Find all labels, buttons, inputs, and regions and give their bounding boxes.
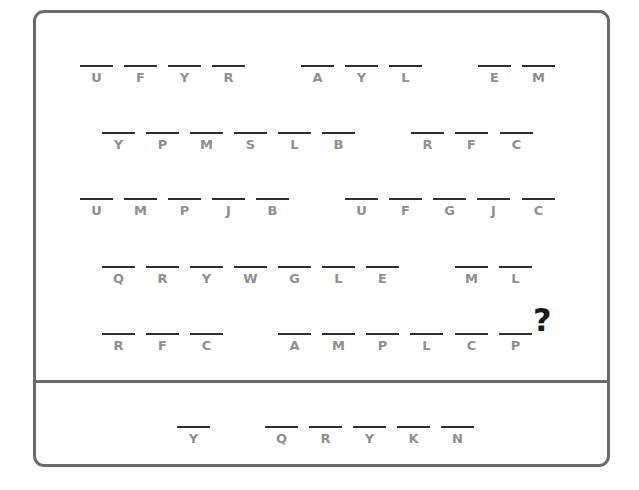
puzzle-letter-slot: R xyxy=(212,65,245,91)
letter: R xyxy=(309,431,342,447)
letter: P xyxy=(168,203,201,219)
puzzle-letter-slot: U xyxy=(80,198,113,224)
puzzle-letter-slot: C xyxy=(190,333,223,359)
puzzle-letter-slot: L xyxy=(278,132,311,158)
letter: G xyxy=(278,271,311,287)
puzzle-letter-slot: M xyxy=(190,132,223,158)
answer-letter-slot: R xyxy=(309,426,342,452)
puzzle-letter-slot: B xyxy=(322,132,355,158)
letter: L xyxy=(499,271,532,287)
blank-dash xyxy=(410,333,443,335)
blank-dash xyxy=(168,65,201,67)
blank-dash xyxy=(146,333,179,335)
puzzle-letter-slot: C xyxy=(455,333,488,359)
blank-dash xyxy=(177,426,210,428)
blank-dash xyxy=(477,198,510,200)
letter: U xyxy=(80,70,113,86)
puzzle-letter-slot: M xyxy=(522,65,555,91)
letter: N xyxy=(441,431,474,447)
letter: M xyxy=(522,70,555,86)
letter: J xyxy=(212,203,245,219)
blank-dash xyxy=(322,132,355,134)
letter: M xyxy=(455,271,488,287)
puzzle-letter-slot: G xyxy=(278,266,311,292)
blank-dash xyxy=(256,198,289,200)
letter: F xyxy=(455,137,488,153)
letter: Y xyxy=(353,431,386,447)
blank-dash xyxy=(234,266,267,268)
puzzle-letter-slot: Y xyxy=(168,65,201,91)
answer-letter-slot: K xyxy=(397,426,430,452)
blank-dash xyxy=(234,132,267,134)
answer-letter-slot: Q xyxy=(265,426,298,452)
answer-letter-slot: N xyxy=(441,426,474,452)
puzzle-letter-slot: Y xyxy=(190,266,223,292)
letter: E xyxy=(366,271,399,287)
puzzle-letter-slot: G xyxy=(433,198,466,224)
puzzle-letter-slot: L xyxy=(389,65,422,91)
puzzle-letter-slot: J xyxy=(212,198,245,224)
letter: C xyxy=(455,338,488,354)
letter: F xyxy=(389,203,422,219)
letter: A xyxy=(278,338,311,354)
blank-dash xyxy=(522,198,555,200)
letter: Y xyxy=(190,271,223,287)
puzzle-letter-slot: A xyxy=(301,65,334,91)
blank-dash xyxy=(455,266,488,268)
puzzle-letter-slot: J xyxy=(477,198,510,224)
blank-dash xyxy=(190,266,223,268)
puzzle-letter-slot: P xyxy=(499,333,532,359)
letter: J xyxy=(477,203,510,219)
letter: R xyxy=(102,338,135,354)
blank-dash xyxy=(322,333,355,335)
letter: Y xyxy=(168,70,201,86)
blank-dash xyxy=(102,132,135,134)
blank-dash xyxy=(345,198,378,200)
blank-dash xyxy=(389,65,422,67)
letter: C xyxy=(500,137,533,153)
puzzle-letter-slot: F xyxy=(146,333,179,359)
puzzle-letter-slot: M xyxy=(124,198,157,224)
letter: F xyxy=(124,70,157,86)
blank-dash xyxy=(301,65,334,67)
letter: U xyxy=(80,203,113,219)
puzzle-letter-slot: U xyxy=(345,198,378,224)
answer-letter-slot: Y xyxy=(353,426,386,452)
blank-dash xyxy=(345,65,378,67)
puzzle-letter-slot: F xyxy=(455,132,488,158)
puzzle-letter-slot: E xyxy=(366,266,399,292)
letter: Q xyxy=(265,431,298,447)
letter: E xyxy=(478,70,511,86)
letter: B xyxy=(322,137,355,153)
letter: M xyxy=(322,338,355,354)
letter: A xyxy=(301,70,334,86)
letter: R xyxy=(411,137,444,153)
blank-dash xyxy=(322,266,355,268)
blank-dash xyxy=(278,132,311,134)
letter: C xyxy=(190,338,223,354)
blank-dash xyxy=(212,198,245,200)
puzzle-letter-slot: E xyxy=(478,65,511,91)
puzzle-letter-slot: P xyxy=(366,333,399,359)
letter: L xyxy=(389,70,422,86)
puzzle-letter-slot: W xyxy=(234,266,267,292)
letter: U xyxy=(345,203,378,219)
puzzle-letter-slot: A xyxy=(278,333,311,359)
puzzle-letter-slot: C xyxy=(522,198,555,224)
puzzle-letter-slot: Y xyxy=(102,132,135,158)
puzzle-letter-slot: U xyxy=(80,65,113,91)
letter: P xyxy=(366,338,399,354)
letter: Y xyxy=(177,431,210,447)
blank-dash xyxy=(455,132,488,134)
blank-dash xyxy=(102,266,135,268)
puzzle-letter-slot: Q xyxy=(102,266,135,292)
letter: L xyxy=(278,137,311,153)
blank-dash xyxy=(309,426,342,428)
blank-dash xyxy=(499,266,532,268)
blank-dash xyxy=(433,198,466,200)
blank-dash xyxy=(146,132,179,134)
answer-letter-slot: Y xyxy=(177,426,210,452)
letter: P xyxy=(146,137,179,153)
puzzle-letter-slot: L xyxy=(322,266,355,292)
blank-dash xyxy=(190,333,223,335)
